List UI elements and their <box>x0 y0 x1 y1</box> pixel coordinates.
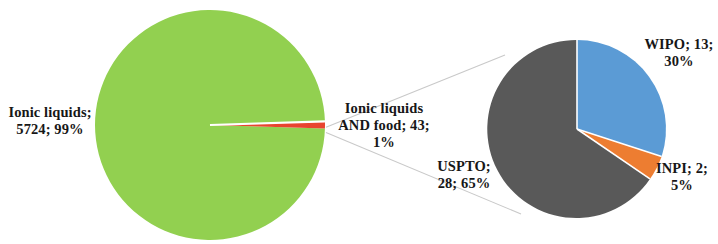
pie-chart-figure: Ionic liquids; 5724; 99% Ionic liquids A… <box>0 0 718 244</box>
data-label-uspto: USPTO; 28; 65% <box>424 158 504 192</box>
data-label-ionic-liquids: Ionic liquids; 5724; 99% <box>2 104 98 138</box>
data-label-wipo: WIPO; 13; 30% <box>640 36 718 70</box>
data-label-inpi: INPI; 2; 5% <box>648 160 716 194</box>
main-pie-group <box>95 10 325 240</box>
data-label-ionic-liquids-and-food: Ionic liquids AND food; 43; 1% <box>332 100 436 151</box>
